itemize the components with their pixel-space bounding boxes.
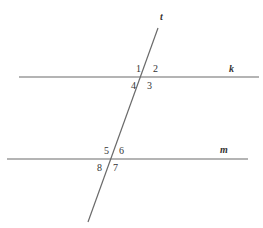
transversal-t [88,28,158,222]
angle-7: 7 [113,162,118,173]
angle-1: 1 [136,63,141,74]
angle-5: 5 [104,145,109,156]
parallel-lines-diagram: t k m 1 2 3 4 5 6 7 8 [0,0,263,228]
angle-8: 8 [97,162,102,173]
angle-6: 6 [119,145,124,156]
label-k: k [229,63,234,74]
label-m: m [220,144,228,155]
angle-3: 3 [147,80,152,91]
angle-4: 4 [131,80,136,91]
label-t: t [160,11,164,22]
angle-2: 2 [153,63,158,74]
